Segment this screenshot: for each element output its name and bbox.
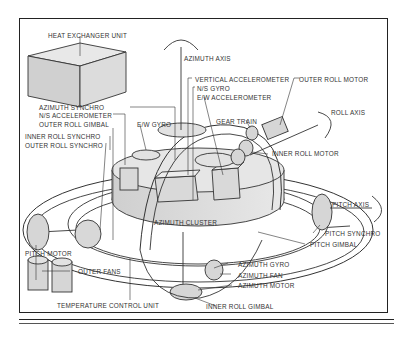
label-outer-roll-motor: OUTER ROLL MOTOR [299, 76, 368, 83]
label-inner-roll-motor: INNER ROLL MOTOR [272, 150, 339, 157]
label-gear-train: GEAR TRAIN [216, 118, 257, 125]
heat-exchanger-box [28, 43, 126, 107]
label-ew-accelerometer: E/W ACCELEROMETER [197, 94, 271, 101]
label-pitch-axis: PITCH AXIS [332, 201, 369, 208]
label-ns-gyro: N/S GYRO [197, 85, 230, 92]
label-ns-accelerometer: N/S ACCELEROMETER [39, 112, 112, 119]
label-temperature-control-unit: TEMPERATURE CONTROL UNIT [57, 302, 159, 309]
label-pitch-synchro: PITCH SYNCHRO [325, 230, 381, 237]
label-outer-roll-synchro: OUTER ROLL SYNCHRO [25, 142, 103, 149]
label-heat-exchanger-unit: HEAT EXCHANGER UNIT [48, 32, 127, 39]
label-vertical-accelerometer: VERTICAL ACCELEROMETER [195, 76, 289, 83]
label-inner-roll-synchro: INNER ROLL SYNCHRO [25, 133, 100, 140]
label-azimuth-cluster: AZIMUTH CLUSTER [154, 219, 217, 226]
gimbal-illustration [0, 0, 415, 340]
label-inner-roll-gimbal: INNER ROLL GIMBAL [206, 303, 273, 310]
label-azimuth-fan: AZIMUTH FAN [238, 272, 283, 279]
label-azimuth-gyro: AZIMUTH GYRO [238, 261, 289, 268]
label-azimuth-motor: AZIMUTH MOTOR [238, 282, 294, 289]
label-ew-gyro: E/W GYRO [137, 121, 171, 128]
label-azimuth-synchro: AZIMUTH SYNCHRO [39, 104, 104, 111]
label-azimuth-axis: AZIMUTH AXIS [184, 55, 231, 62]
label-outer-roll-gimbal: OUTER ROLL GIMBAL [39, 121, 109, 128]
label-pitch-motor: PITCH MOTOR [25, 250, 72, 257]
label-pitch-gimbal: PITCH GIMBAL [310, 241, 358, 248]
label-outer-fans: OUTER FANS [78, 268, 121, 275]
label-roll-axis: ROLL AXIS [331, 109, 365, 116]
